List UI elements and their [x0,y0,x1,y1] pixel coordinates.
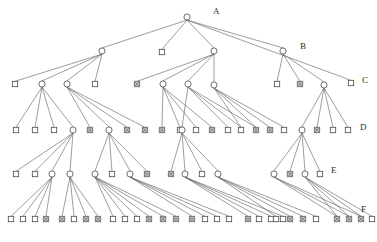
tree-edge [46,177,52,216]
tree-edge [67,87,127,127]
tree-node-internal[interactable] [39,81,45,87]
tree-edge [137,54,214,81]
tree-edge [163,87,212,127]
tree-edge [102,20,187,48]
level-label-f: F [361,204,366,214]
tree-edge [218,177,303,216]
tree-edge [185,177,259,216]
tree-node-leaf[interactable] [345,127,350,132]
tree-edge [67,87,109,127]
tree-node-internal[interactable] [179,127,185,133]
tree-edge [42,87,54,127]
tree-edge [163,87,180,127]
tree-edge [324,88,333,127]
tree-node-internal[interactable] [321,82,327,88]
tree-node-leaf[interactable] [313,216,318,221]
tree-edge [70,177,74,216]
tree-edge [15,54,102,81]
tree-edge [35,133,73,171]
tree-node-internal[interactable] [302,171,308,177]
tree-node-leaf[interactable] [32,171,37,176]
tree-edge [188,54,214,81]
tree-edge [214,88,256,127]
tree-node-leaf[interactable] [238,127,243,132]
tree-node-leaf[interactable] [32,127,37,132]
tree-node-leaf[interactable] [273,216,278,221]
tree-node-leaf[interactable] [110,216,115,221]
tree-edge [187,20,283,48]
tree-node-internal[interactable] [271,171,277,177]
tree-node-leaf[interactable] [13,127,18,132]
tree-node-internal[interactable] [99,48,105,54]
tree-node-leaf[interactable] [317,171,322,176]
tree-node-leaf[interactable] [134,216,139,221]
tree-node-internal[interactable] [67,171,73,177]
tree-edge [109,133,147,171]
tree-node-leaf[interactable] [92,81,97,86]
tree-node-internal[interactable] [182,171,188,177]
tree-edge [182,133,185,171]
tree-edge [185,177,248,216]
tree-node-internal[interactable] [185,81,191,87]
tree-edge [70,177,86,216]
tree-node-leaf[interactable] [330,127,335,132]
tree-node-internal[interactable] [127,171,133,177]
tree-node-leaf[interactable] [268,216,273,221]
tree-node-leaf[interactable] [225,127,230,132]
tree-node-leaf[interactable] [348,80,353,85]
tree-edge [70,133,73,171]
tree-edge [95,133,109,171]
tree-node-internal[interactable] [70,127,76,133]
tree-node-leaf[interactable] [8,216,13,221]
tree-edge [305,177,361,216]
tree-node-leaf[interactable] [214,216,219,221]
tree-edge [171,133,182,171]
tree-node-internal[interactable] [160,81,166,87]
tree-edge [274,133,302,171]
tree-node-leaf[interactable] [274,81,279,86]
tree-edge [109,133,112,171]
tree-diagram-figure: ABCDEF [0,0,377,242]
tree-node-leaf[interactable] [109,171,114,176]
tree-node-internal[interactable] [49,171,55,177]
tree-node-internal[interactable] [280,48,286,54]
tree-edge [16,133,73,171]
tree-edge [163,87,196,127]
tree-node-internal[interactable] [92,171,98,177]
tree-node-leaf[interactable] [202,216,207,221]
tree-node-leaf[interactable] [32,216,37,221]
level-label-a: A [213,6,220,16]
tree-edge [130,177,192,216]
tree-node-internal[interactable] [106,127,112,133]
tree-node-leaf[interactable] [51,127,56,132]
tree-node-internal[interactable] [64,81,70,87]
tree-node-leaf[interactable] [369,216,374,221]
tree-node-leaf[interactable] [13,171,18,176]
tree-node-internal[interactable] [184,14,190,20]
tree-node-internal[interactable] [211,82,217,88]
tree-edge [130,177,217,216]
tree-edge [218,177,290,216]
tree-node-leaf[interactable] [256,216,261,221]
tree-node-leaf[interactable] [20,216,25,221]
tree-node-leaf[interactable] [12,81,17,86]
tree-node-internal[interactable] [215,171,221,177]
tree-node-leaf[interactable] [226,216,231,221]
tree-edge [324,88,348,127]
tree-edge [109,133,130,171]
tree-edge [214,88,241,127]
tree-node-leaf[interactable] [71,216,76,221]
tree-node-leaf[interactable] [281,127,286,132]
tree-node-leaf[interactable] [280,216,285,221]
tree-edge [35,87,42,127]
tree-edge [16,87,42,127]
level-label-d: D [360,122,367,132]
tree-node-leaf[interactable] [159,49,164,54]
tree-node-internal[interactable] [211,48,217,54]
tree-node-internal[interactable] [299,127,305,133]
tree-node-leaf[interactable] [193,127,198,132]
tree-edge [42,87,73,127]
tree-node-leaf[interactable] [122,216,127,221]
tree-node-leaf[interactable] [199,171,204,176]
tree-edge [95,177,137,216]
